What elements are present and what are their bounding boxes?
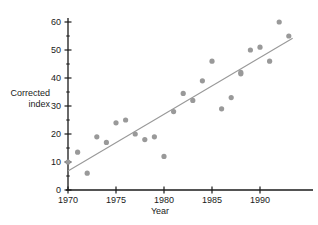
x-axis-title: Year: [151, 206, 169, 216]
data-point: [75, 150, 80, 155]
data-point: [133, 131, 138, 136]
data-point: [219, 106, 224, 111]
data-point: [267, 59, 272, 64]
data-point: [181, 91, 186, 96]
data-point: [152, 134, 157, 139]
y-tick-label: 0: [56, 185, 61, 195]
data-point: [171, 109, 176, 114]
x-tick-label: 1980: [154, 195, 174, 205]
data-point: [65, 159, 70, 164]
data-point: [123, 117, 128, 122]
chart-canvas: 010203040506019701975198019851990YearCor…: [0, 0, 318, 225]
data-point: [257, 45, 262, 50]
x-tick-label: 1985: [202, 195, 222, 205]
data-point: [94, 134, 99, 139]
data-point: [200, 78, 205, 83]
y-tick-label: 50: [51, 45, 61, 55]
y-axis-title-line2: index: [28, 99, 50, 109]
data-point: [104, 140, 109, 145]
scatter-chart: 010203040506019701975198019851990YearCor…: [0, 0, 318, 225]
data-point: [238, 70, 243, 75]
data-point: [142, 137, 147, 142]
data-point: [277, 19, 282, 24]
data-point: [190, 98, 195, 103]
data-point: [229, 95, 234, 100]
x-tick-label: 1975: [106, 195, 126, 205]
data-point: [85, 171, 90, 176]
x-tick-label: 1970: [58, 195, 78, 205]
data-point: [286, 33, 291, 38]
x-tick-label: 1990: [250, 195, 270, 205]
y-tick-label: 40: [51, 73, 61, 83]
y-tick-label: 30: [51, 101, 61, 111]
y-tick-label: 20: [51, 129, 61, 139]
data-point: [248, 47, 253, 52]
y-axis-title-line1: Corrected: [10, 88, 50, 98]
y-tick-label: 60: [51, 17, 61, 27]
y-tick-label: 10: [51, 157, 61, 167]
data-point: [209, 59, 214, 64]
data-point: [161, 154, 166, 159]
trend-line: [68, 38, 293, 171]
data-point: [113, 120, 118, 125]
